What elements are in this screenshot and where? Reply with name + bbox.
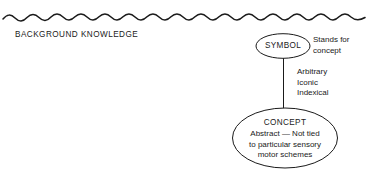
stands-for-annotation: Stands for concept — [313, 35, 349, 56]
symbol-concept-connector — [283, 57, 284, 113]
diagram-canvas: BACKGROUND KNOWLEDGE SYMBOL Stands for c… — [0, 0, 370, 180]
concept-node-description: Abstract — Not tied to particular sensor… — [232, 129, 338, 161]
concept-desc-line-1: Abstract — Not tied — [232, 129, 338, 140]
symbol-node[interactable] — [255, 33, 311, 59]
background-knowledge-label: BACKGROUND KNOWLEDGE — [15, 30, 138, 39]
link-qualifiers-annotation: Arbitrary Iconic Indexical — [297, 67, 329, 99]
link-qualifier-arbitrary: Arbitrary — [297, 67, 329, 78]
link-qualifier-indexical: Indexical — [297, 88, 329, 99]
link-qualifier-iconic: Iconic — [297, 78, 329, 89]
concept-desc-line-2: to particular sensory — [232, 140, 338, 151]
wavy-divider-icon — [0, 10, 370, 24]
stands-for-line-2: concept — [313, 46, 349, 57]
stands-for-line-1: Stands for — [313, 35, 349, 46]
concept-desc-line-3: motor schemes — [232, 150, 338, 161]
